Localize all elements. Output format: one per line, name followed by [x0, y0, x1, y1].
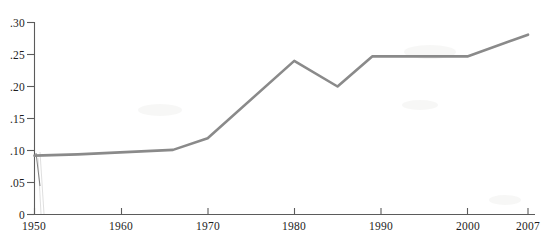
y-tick-label: .10: [10, 145, 25, 157]
x-tick-label: 1970: [196, 220, 220, 232]
x-tick-label: 2007: [516, 220, 540, 232]
y-tick-label: .30: [10, 17, 25, 29]
y-tick-label: .25: [10, 49, 25, 61]
x-axis-labels: 1950 1960 1970 1980 1990 2000 2007: [22, 220, 540, 232]
x-tick-label: 1980: [282, 220, 306, 232]
x-tick-label: 2000: [456, 220, 480, 232]
scan-smudge: [402, 100, 438, 110]
y-axis-ticks: [27, 23, 35, 215]
scan-smudge: [138, 104, 182, 116]
scan-fold-artifact: [36, 153, 40, 186]
scan-smudge: [489, 195, 521, 205]
x-axis-ticks: [35, 208, 529, 215]
chart-axes: [35, 22, 536, 215]
x-tick-label: 1960: [109, 220, 133, 232]
y-tick-label: .20: [10, 81, 25, 93]
chart-canvas: .30 .25 .20 .15 .10 .05 0 1950 1960 1970…: [0, 0, 547, 243]
y-tick-label: .05: [10, 177, 25, 189]
x-tick-label: 1990: [369, 220, 393, 232]
x-tick-label: 1950: [22, 220, 46, 232]
line-chart: .30 .25 .20 .15 .10 .05 0 1950 1960 1970…: [0, 0, 547, 243]
y-tick-label: .15: [10, 113, 25, 125]
y-axis-labels: .30 .25 .20 .15 .10 .05 0: [10, 17, 25, 221]
